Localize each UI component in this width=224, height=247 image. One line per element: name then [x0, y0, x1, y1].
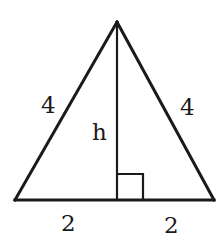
- base-right-label: 2: [164, 212, 179, 238]
- base-left-label: 2: [61, 210, 76, 236]
- left-side: [15, 22, 117, 200]
- right-angle-marker: [117, 174, 143, 200]
- height-label: h: [92, 119, 107, 145]
- right-side-label: 4: [180, 94, 195, 120]
- triangle-diagram: 4 4 h 2 2: [0, 0, 224, 247]
- left-side-label: 4: [41, 92, 56, 118]
